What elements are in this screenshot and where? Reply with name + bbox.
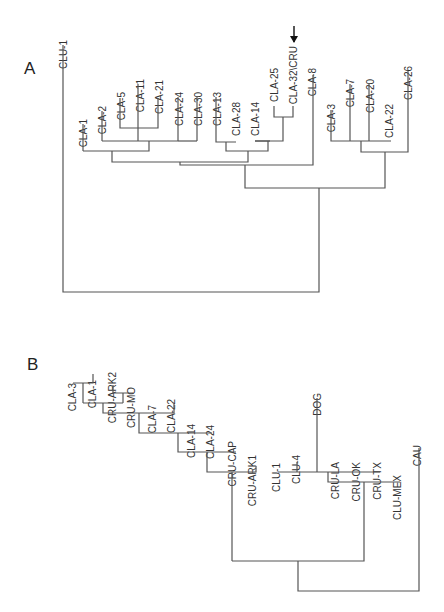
taxon-label: CLA-1 bbox=[87, 380, 98, 409]
taxon-label: CLA-32\CRU bbox=[288, 46, 299, 104]
taxon-label: CLA-28 bbox=[231, 102, 242, 136]
taxon-label: CLA-22 bbox=[166, 399, 177, 433]
panel-a-label: A bbox=[24, 59, 36, 78]
taxon-label: CRU-ARK1 bbox=[247, 455, 258, 507]
panel-a-tree: CLU-1 CLA-1 CLA-2 CLA-5 CLA-11 CLA-21 CL… bbox=[58, 26, 414, 292]
taxon-label: CLA-11 bbox=[135, 79, 146, 113]
taxon-label: CRU-TX bbox=[372, 462, 383, 500]
panel-b-tree: CLA-3 CLA-1 CRU-ARK2 CRU-MO CLA-7 CLA-22… bbox=[67, 372, 423, 591]
taxon-label: CAU bbox=[412, 445, 423, 466]
taxon-label: CLA-14 bbox=[186, 424, 197, 458]
taxon-label: CLA-5 bbox=[116, 92, 127, 121]
taxon-label: CLA-3 bbox=[67, 383, 78, 412]
taxon-label: CLA-13 bbox=[212, 92, 223, 126]
phylogenetic-figure: A CLU-1 CLA-1 CLA-2 CLA-5 CLA-11 CLA-21 … bbox=[0, 0, 444, 612]
taxon-label: CLA-24 bbox=[174, 92, 185, 126]
taxon-label: CLA-7 bbox=[147, 405, 158, 434]
taxon-label: CLU-1 bbox=[271, 463, 282, 492]
taxon-label: CRU-LA bbox=[330, 462, 341, 500]
taxon-label: CLA-30 bbox=[193, 92, 204, 126]
taxon-label: CLA-21 bbox=[154, 80, 165, 114]
taxon-label: CLA-20 bbox=[365, 79, 376, 113]
taxon-label: CLA-25 bbox=[269, 68, 280, 102]
taxon-label: CRU-ARK2 bbox=[107, 372, 118, 424]
panel-b-label: B bbox=[27, 355, 38, 374]
taxon-label: CLA-14 bbox=[250, 102, 261, 136]
arrow-down-icon bbox=[290, 26, 298, 43]
taxon-label: CLA-22 bbox=[384, 104, 395, 138]
